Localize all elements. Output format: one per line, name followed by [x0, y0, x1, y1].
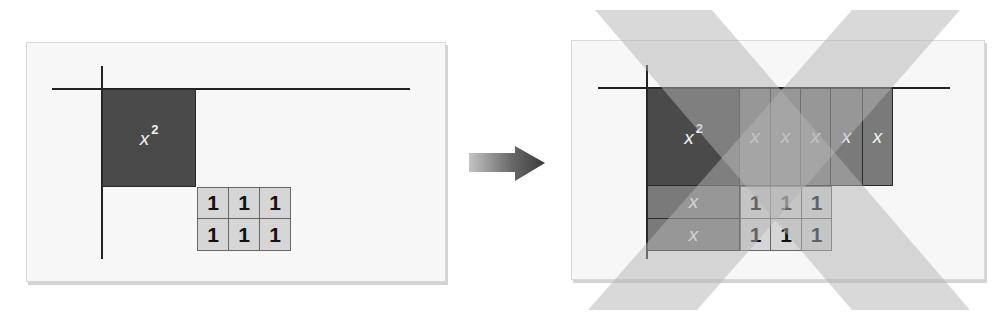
right-x-tile: x — [830, 88, 863, 186]
right-x-squared-tile: x2 — [647, 88, 740, 186]
right-unit-tile: 1 — [801, 218, 832, 251]
left-unit-tile: 1 — [228, 218, 260, 251]
right-unit-tile: 1 — [801, 186, 832, 219]
right-x-tile: x — [739, 88, 771, 186]
x-squared-label: x2 — [140, 126, 159, 150]
right-x-tile: x — [800, 88, 831, 186]
left-x-squared-tile: x2 — [102, 89, 196, 187]
left-unit-tile: 1 — [197, 187, 229, 219]
left-unit-tile: 1 — [259, 218, 291, 251]
right-x-tile: x — [770, 88, 801, 186]
right-unit-tile: 1 — [740, 186, 771, 219]
right-x-tile: x — [862, 88, 893, 186]
right-unit-tile: 1 — [740, 218, 771, 251]
right-unit-tile: 1 — [770, 186, 802, 219]
right-unit-tile: 1 — [770, 218, 802, 251]
left-unit-tile: 1 — [197, 218, 229, 251]
left-unit-tile: 1 — [259, 187, 291, 219]
left-unit-tile: 1 — [228, 187, 260, 219]
right-x-tile: x — [647, 218, 740, 251]
right-x-tile: x — [647, 185, 740, 219]
